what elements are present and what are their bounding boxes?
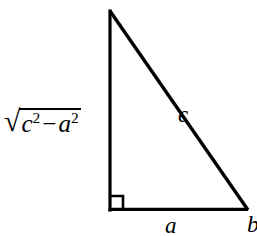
radicand-second-term: a bbox=[58, 110, 71, 137]
radicand-expression: c2−a2 bbox=[19, 108, 80, 136]
radical-sign-icon: √ bbox=[4, 107, 20, 136]
radicand-operator: − bbox=[40, 110, 58, 137]
radicand-second-exponent: 2 bbox=[71, 109, 79, 126]
vertical-leg-label: √ c2−a2 bbox=[4, 106, 81, 135]
radicand-first-term: c bbox=[21, 110, 32, 137]
base-label: a bbox=[165, 214, 177, 236]
vertex-b-label: b bbox=[247, 212, 257, 236]
hypotenuse-label: c bbox=[178, 103, 188, 126]
right-angle-marker-icon bbox=[110, 196, 123, 209]
geometry-figure: c a b √ c2−a2 bbox=[0, 0, 257, 236]
